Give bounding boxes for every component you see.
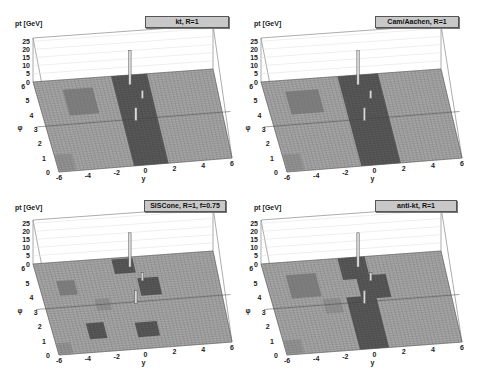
y-tick: 4 [201,162,205,169]
y-tick: 2 [402,165,406,172]
z-tick: 0 [254,261,258,268]
z-tick: 0 [254,79,258,86]
y-axis-label: y [142,175,146,183]
z-tick: 15 [250,54,258,61]
particle-spike [369,90,371,98]
z-tick: 15 [250,236,258,243]
y-tick: -6 [284,174,290,181]
y-tick: 2 [172,165,176,172]
particle-spike [369,273,371,281]
z-tick: 15 [22,236,30,243]
y-tick: -4 [313,355,319,362]
phi-tick: 1 [42,155,46,162]
phi-tick: 2 [266,323,270,330]
phi-tick: 4 [258,294,262,301]
z-tick: 15 [22,54,30,61]
figure: 05101520250123456φ-6-4-20246y pt [GeV] k… [0,0,478,380]
panel-cam-aachen: 05101520250123456φ-6-4-20246y pt [GeV] C… [239,0,478,190]
phi-axis-label: φ [245,124,250,132]
y-tick: -2 [114,353,120,360]
y-tick: -2 [342,169,348,176]
y-tick: 6 [230,160,234,167]
particle-spike [357,51,359,85]
y-tick: -4 [313,172,319,179]
z-axis-label: pt [GeV] [254,204,281,211]
phi-tick: 2 [266,140,270,147]
panel-title: anti-kt, R=1 [375,200,457,212]
panel-title: SISCone, R=1, f=0.75 [144,200,226,212]
particle-spike [135,290,137,303]
z-axis-label: pt [GeV] [254,20,281,27]
y-tick: -6 [284,357,290,364]
phi-tick: 0 [46,352,50,359]
phi-tick: 6 [249,265,253,272]
z-tick: 25 [250,38,258,45]
panel-anti-kt: 05101520250123456φ-6-4-20246y pt [GeV] a… [239,190,478,380]
z-tick: 25 [250,220,258,227]
phi-tick: 4 [258,112,262,119]
phi-tick: 4 [30,112,34,119]
y-axis-label: y [371,175,375,183]
phi-tick: 6 [21,83,25,90]
phi-tick: 1 [270,155,274,162]
z-axis-label: pt [GeV] [15,204,42,211]
particle-spike [129,51,131,85]
phi-tick: 0 [274,352,278,359]
y-tick: 2 [172,348,176,355]
y-tick: 0 [373,351,377,358]
y-tick: -2 [342,353,348,360]
z-tick: 10 [22,62,30,69]
y-tick: 4 [431,346,435,353]
lego-plot: 05101520250123456φ-6-4-20246y [239,190,478,380]
panel-title: Cam/Aachen, R=1 [375,16,459,28]
phi-tick: 3 [34,126,38,133]
y-tick: -2 [114,169,120,176]
z-tick: 5 [26,70,30,77]
particle-spike [141,273,143,281]
particle-spike [357,233,359,267]
y-tick: 6 [460,160,464,167]
phi-tick: 3 [262,309,266,316]
y-axis-label: y [142,359,146,367]
z-tick: 10 [250,62,258,69]
particle-spike [135,108,137,121]
y-tick: -4 [85,355,91,362]
y-tick: 4 [431,162,435,169]
y-tick: 0 [373,167,377,174]
y-tick: -6 [56,357,62,364]
z-tick: 20 [22,228,30,235]
z-tick: 5 [26,252,30,259]
phi-axis-label: φ [17,307,22,315]
phi-tick: 3 [262,126,266,133]
phi-tick: 5 [25,280,29,287]
particle-spike [141,90,143,98]
lego-plot: 05101520250123456φ-6-4-20246y [0,0,239,190]
phi-tick: 1 [42,338,46,345]
z-tick: 10 [250,244,258,251]
panel-siscone: 05101520250123456φ-6-4-20246y pt [GeV] S… [0,190,239,380]
z-tick: 5 [254,252,258,259]
y-tick: -6 [56,174,62,181]
z-tick: 25 [22,38,30,45]
lego-plot: 05101520250123456φ-6-4-20246y [0,190,239,380]
y-tick: 2 [402,348,406,355]
phi-tick: 2 [38,140,42,147]
particle-spike [363,290,365,303]
panel-title: kt, R=1 [145,16,229,28]
phi-tick: 5 [25,97,29,104]
phi-tick: 5 [253,280,257,287]
particle-spike [363,108,365,121]
y-tick: 4 [201,346,205,353]
z-tick: 10 [22,244,30,251]
phi-axis-label: φ [17,124,22,132]
y-tick: 6 [230,344,234,351]
jet-area [286,273,322,298]
z-tick: 25 [22,220,30,227]
y-tick: -4 [85,172,91,179]
phi-tick: 0 [274,169,278,176]
phi-tick: 6 [249,83,253,90]
phi-tick: 6 [21,265,25,272]
phi-tick: 4 [30,294,34,301]
y-tick: 6 [460,344,464,351]
phi-tick: 0 [46,169,50,176]
